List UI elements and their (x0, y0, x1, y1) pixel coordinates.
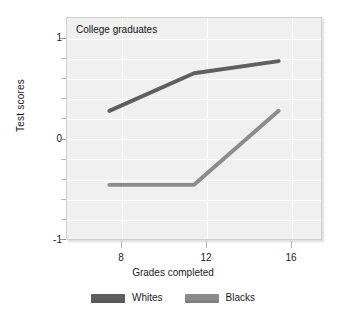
legend-item-blacks: Blacks (185, 293, 255, 303)
plot-inner: College graduates (67, 18, 321, 239)
series-layer (67, 18, 321, 239)
x-tick-label-12: 12 (186, 252, 226, 263)
y-axis-title: Test scores (15, 56, 26, 156)
chart-figure: Test scores 1 0 -1 Co (0, 0, 346, 324)
x-axis-title: Grades completed (0, 267, 346, 278)
legend-item-whites: Whites (91, 293, 163, 303)
x-tick-label-16: 16 (271, 252, 311, 263)
x-tick-mark-16 (291, 241, 292, 248)
x-tick-mark-8 (121, 241, 122, 248)
legend-swatch-blacks (185, 294, 219, 303)
series-line-blacks (109, 111, 278, 185)
y-tick-label-neg1: -1 (40, 235, 62, 245)
legend-label-blacks: Blacks (226, 293, 255, 303)
plot-area: College graduates (66, 17, 322, 240)
legend-swatch-whites (91, 294, 125, 303)
y-tick-label-0: 0 (40, 134, 62, 144)
legend-label-whites: Whites (132, 293, 163, 303)
series-line-whites (109, 61, 278, 111)
chart-legend: Whites Blacks (0, 293, 346, 303)
x-tick-label-8: 8 (101, 252, 141, 263)
y-tick-label-1: 1 (40, 33, 62, 43)
x-tick-mark-12 (206, 241, 207, 248)
